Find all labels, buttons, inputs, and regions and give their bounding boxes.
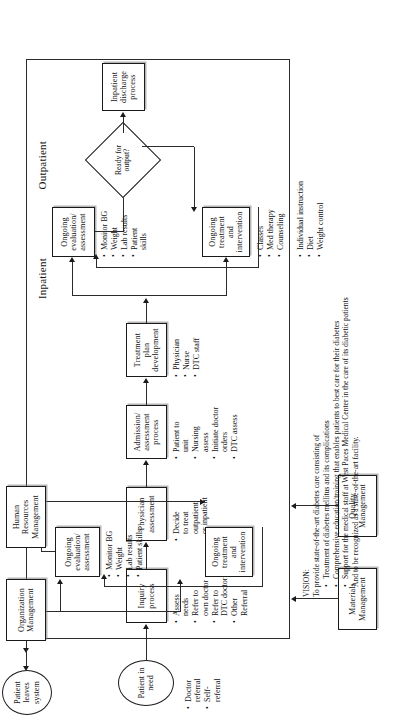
list-item: DTC staff [192, 338, 201, 377]
list-item: Counseling [276, 209, 285, 257]
bullet-line: Weight [115, 547, 124, 570]
list-item: Self- referral [203, 678, 222, 709]
list-item: Nurse [182, 338, 191, 377]
end-node-line: system [32, 681, 41, 704]
list-item: Monitor BG [100, 211, 109, 257]
bullet-line: Refer to [191, 590, 200, 616]
vision-bullet: Support for the medical staff at West Pa… [341, 297, 351, 587]
arrowhead [93, 254, 99, 259]
node-label-line: process [147, 583, 156, 608]
outpatient-eval-bullets: Monitor BG Weight Lab results Patient sk… [105, 529, 145, 577]
arrowhead [191, 207, 197, 212]
node-label-line: Ongoing [211, 532, 220, 573]
list-item: Weight [110, 211, 119, 257]
vision-closing: And to be recognized as a state-of-the-a… [351, 297, 361, 587]
node-label-line: Resources [21, 495, 30, 539]
vision-intro: To provide state-of-the-art diabetes car… [312, 297, 322, 597]
bullet-line: Doctor [184, 680, 193, 702]
start-node-bullets: Doctor referral Self- referral [184, 678, 223, 709]
bullet-line: Referral [240, 590, 249, 616]
arrowhead [143, 378, 149, 383]
edge-outpatient-feed-v [60, 611, 180, 612]
node-label-line: Inpatient [110, 71, 119, 103]
node-label-line: Admission/ [133, 413, 142, 452]
node-admission-assessment-process: Admission/ assessment process [126, 405, 167, 459]
list-item: Initiate doctororders [211, 407, 230, 459]
bullet-line: assess [201, 432, 210, 452]
arrowhead [177, 579, 183, 584]
list-item: OtherReferral [230, 578, 249, 623]
list-item: Refer toown doctor [191, 578, 210, 623]
edge-outpatient-exit-down [41, 501, 205, 502]
bullet-line: Patient [130, 228, 139, 250]
node-label-line: development [151, 328, 160, 371]
list-item: Assessneeds [172, 578, 191, 623]
bullet-line: Self- [203, 686, 212, 702]
node-outpatient-ongoing-evaluation: Ongoing evaluation/ assessment [55, 527, 100, 577]
decision-label-line: output? [122, 149, 131, 172]
edge-decision-yes-to-discharge [123, 115, 124, 133]
end-node-line: leaves [22, 682, 31, 702]
support-box-human-resources-management: Human Resources Management [6, 486, 46, 548]
bullet-line: DTC doctor [220, 578, 229, 616]
edge-outpatient-eval-up [41, 551, 55, 552]
bullet-line: needs [181, 598, 190, 616]
node-label-line: process [128, 71, 137, 103]
bullet-line: Lab results [120, 215, 129, 250]
list-item: Patient tounit [172, 407, 191, 459]
list-item: Refer toDTC doctor [211, 578, 230, 623]
bullet-line: Decide [172, 511, 181, 534]
arrowhead [57, 579, 63, 584]
edge-decision-to-treat-h [194, 147, 195, 207]
node-label-line: intervention [235, 212, 244, 253]
end-node-line: Patient [13, 681, 22, 704]
node-label-line: and [226, 212, 235, 253]
list-item: Physician [172, 338, 181, 377]
node-label-line: intervention [238, 532, 247, 573]
bullet-line: DTC staff [192, 338, 201, 370]
start-node-patient-in-need: Patient in need [118, 660, 174, 706]
inpatient-treat-bullets-left: Classes Med therapy Counseling [256, 209, 286, 257]
edge-inpatient-feed-to-treat [226, 260, 227, 296]
arrowhead [143, 624, 149, 629]
node-label-line: Human [12, 495, 21, 539]
node-label-line: treatment [217, 212, 226, 253]
bullet-line: Counseling [276, 214, 285, 250]
vision-bullet: Comprehensive education/training that en… [332, 297, 342, 587]
list-item: Patientskills [130, 211, 149, 257]
diagram-canvas: Patient in need Doctor referral Self- re… [0, 0, 395, 723]
bullet-line: Patient skills [135, 529, 144, 570]
edge-inpatient-treat-loopback-v [96, 267, 258, 268]
edge-to-end-node-2 [26, 649, 27, 667]
node-label-line: and [229, 532, 238, 573]
list-item: Lab results [120, 211, 129, 257]
node-label-line: Organization [17, 588, 26, 632]
arrowhead [291, 503, 296, 509]
arrowhead [69, 257, 75, 262]
list-item: Nursingassess [191, 407, 210, 459]
edge-outpatient-feed-to-eval [60, 582, 61, 612]
node-label-line: evaluation/ [73, 533, 82, 570]
bullet-line: referral [193, 678, 202, 702]
inquiry-bullets: Assessneeds Refer toown doctor Refer toD… [172, 578, 250, 623]
bullet-line: unit [181, 440, 190, 452]
bullet-line: Monitor BG [105, 531, 114, 570]
edge-treatment-plan-to-inpatient [146, 301, 147, 323]
list-item: Diet [306, 181, 315, 257]
node-label-line: discharge [119, 71, 128, 103]
edge-inpatient-eval-to-decision [95, 231, 123, 232]
bullet-line: Diet [306, 236, 315, 250]
node-treatment-plan-development: Treatment plan development [126, 323, 167, 377]
start-node-line-1: Patient [137, 676, 146, 699]
arrowhead [143, 460, 149, 465]
node-outpatient-ongoing-treatment: Ongoing treatment and intervention [205, 527, 253, 577]
edge-inpatient-feed-vertical-lower [146, 295, 226, 296]
list-item: Monitor BG [105, 529, 114, 577]
vision-title: VISION: [302, 297, 312, 597]
bullet-line: Med therapy [266, 209, 275, 250]
list-item: Weight control [316, 181, 325, 257]
edge-physician-to-admission [146, 463, 147, 487]
bullet-line: Other [230, 598, 239, 616]
end-node-patient-leaves-system: Patient leaves system [2, 670, 52, 715]
arrowhead [223, 257, 229, 262]
